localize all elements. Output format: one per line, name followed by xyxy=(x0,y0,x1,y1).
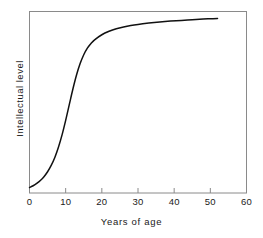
x-tick-label-10: 10 xyxy=(54,196,78,207)
plot-frame xyxy=(30,12,247,194)
x-tick-label-50: 50 xyxy=(198,196,222,207)
x-axis-title: Years of age xyxy=(0,216,263,227)
x-tick-label-30: 30 xyxy=(126,196,150,207)
chart-figure: 0102030405060 Years of age Intellectual … xyxy=(0,0,263,238)
x-tick-label-20: 20 xyxy=(90,196,114,207)
y-axis-title: Intellectual level xyxy=(14,34,25,164)
x-tick-label-0: 0 xyxy=(18,196,42,207)
x-tick-label-60: 60 xyxy=(235,196,259,207)
x-tick-label-40: 40 xyxy=(162,196,186,207)
